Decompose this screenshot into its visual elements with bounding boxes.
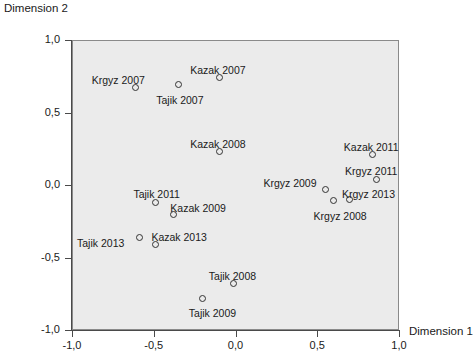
y-tick-label: -0,5 [20, 251, 60, 263]
data-point-label: Kazak 2013 [151, 231, 206, 243]
x-tick-mark [317, 330, 318, 337]
y-axis-title: Dimension 2 [4, 2, 68, 14]
x-tick-label: -0,5 [134, 339, 174, 351]
data-point-label: Tajik 2013 [77, 237, 124, 249]
y-tick-label: 0,0 [20, 178, 60, 190]
data-point-label: Kazak 2007 [190, 64, 245, 76]
data-point-marker [136, 234, 143, 241]
x-tick-label: -1,0 [52, 339, 92, 351]
y-tick-mark [65, 185, 72, 186]
data-point-marker [322, 186, 329, 193]
data-point-label: Tajik 2011 [133, 188, 180, 200]
y-tick-mark [65, 40, 72, 41]
y-tick-label: -1,0 [20, 323, 60, 335]
x-tick-label: 1,0 [379, 339, 419, 351]
data-point-label: Krgyz 2009 [263, 177, 316, 189]
data-point-label: Tajik 2007 [156, 94, 203, 106]
data-point-label: Krgyz 2008 [314, 210, 367, 222]
data-point-label: Krgyz 2011 [345, 165, 397, 177]
y-tick-mark [65, 330, 72, 331]
x-tick-mark [236, 330, 237, 337]
y-tick-mark [65, 113, 72, 114]
data-point-label: Kazak 2008 [190, 138, 245, 150]
x-tick-mark [72, 330, 73, 337]
y-tick-label: 0,5 [20, 106, 60, 118]
data-point-label: Krgyz 2013 [342, 188, 395, 200]
data-point-label: Kazak 2009 [170, 202, 225, 214]
data-point-label: Krgyz 2007 [92, 74, 145, 86]
x-tick-label: 0,5 [297, 339, 337, 351]
y-tick-mark [65, 258, 72, 259]
data-point-label: Kazak 2011 [344, 141, 399, 153]
x-axis-title: Dimension 1 [409, 325, 473, 337]
data-point-label: Tajik 2009 [189, 307, 236, 319]
data-point-marker [199, 295, 206, 302]
y-tick-label: 1,0 [20, 33, 60, 45]
x-tick-mark [399, 330, 400, 337]
data-point-label: Tajik 2008 [209, 270, 256, 282]
x-tick-mark [154, 330, 155, 337]
x-tick-label: 0,0 [216, 339, 256, 351]
